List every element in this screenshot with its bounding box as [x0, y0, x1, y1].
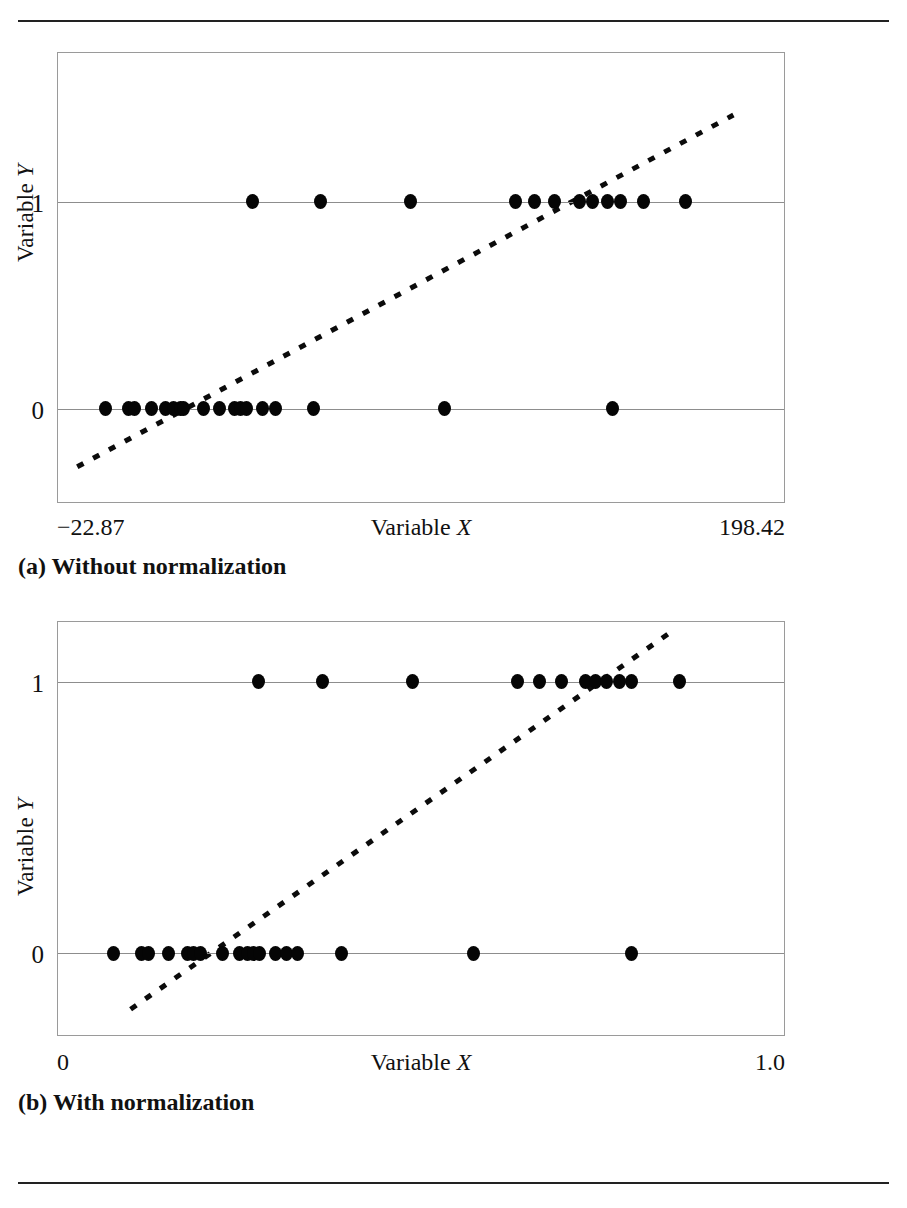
x-axis-max-label-b: 1.0 — [755, 1049, 785, 1076]
data-point — [128, 401, 141, 416]
bottom-horizontal-rule — [18, 1182, 889, 1184]
data-point — [625, 946, 638, 961]
gridline-y-1: 1 — [58, 202, 784, 203]
data-point — [467, 946, 480, 961]
top-horizontal-rule — [18, 20, 889, 22]
caption-a: (a) Without normalization — [18, 553, 286, 580]
data-point — [533, 674, 546, 689]
data-point — [335, 946, 348, 961]
y-tick-label-0: 0 — [32, 397, 45, 422]
data-point — [145, 401, 158, 416]
x-axis-max-label-a: 198.42 — [719, 514, 785, 541]
data-point — [253, 946, 266, 961]
trendline-a — [58, 53, 784, 502]
data-point — [600, 674, 613, 689]
data-point — [142, 946, 155, 961]
data-point — [314, 194, 327, 209]
data-point — [291, 946, 304, 961]
caption-b: (b) With normalization — [18, 1089, 254, 1116]
figure-a: Variable Y 01 −22.87 Variable X 198.42 (… — [0, 40, 907, 585]
x-axis-b: 0 Variable X 1.0 — [57, 1049, 785, 1083]
x-axis-title-a: Variable X — [57, 514, 785, 541]
y-axis-title-b: Variable Y — [13, 777, 39, 917]
data-point — [316, 674, 329, 689]
data-point — [194, 946, 207, 961]
data-point — [216, 946, 229, 961]
y-tick-label-1: 1 — [32, 670, 45, 695]
data-point — [601, 194, 614, 209]
data-point — [406, 674, 419, 689]
y-tick-label-0: 0 — [32, 942, 45, 967]
data-point — [99, 401, 112, 416]
figure-b: Variable Y 01 0 Variable X 1.0 (b) With … — [0, 609, 907, 1129]
x-axis-title-b: Variable X — [57, 1049, 785, 1076]
plot-area-b: 01 — [57, 621, 785, 1036]
x-axis-a: −22.87 Variable X 198.42 — [57, 514, 785, 548]
plot-area-a: 01 — [57, 52, 785, 503]
data-point — [162, 946, 175, 961]
data-point — [606, 401, 619, 416]
y-tick-label-1: 1 — [32, 190, 45, 215]
